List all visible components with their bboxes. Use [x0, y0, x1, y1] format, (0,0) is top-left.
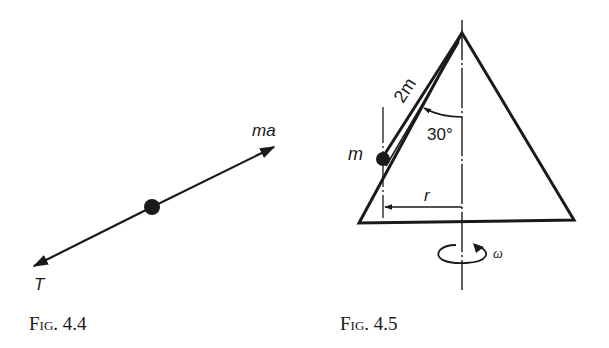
caption-number: 4.4	[63, 313, 87, 334]
label-angle: 30°	[427, 125, 453, 144]
caption-prefix: Fig.	[340, 313, 369, 334]
fig-4-5-diagram: 2m 30° m r ω	[348, 20, 574, 290]
label-omega: ω	[493, 246, 503, 261]
angle-arc	[424, 108, 462, 117]
rotation-arrowhead-icon	[473, 243, 484, 253]
tension-line	[34, 207, 152, 266]
label-t: T	[34, 275, 46, 294]
rod-inner	[386, 42, 459, 166]
caption-number: 4.5	[374, 313, 398, 334]
cone-outline	[359, 33, 574, 223]
figures-canvas: ma T 2m 30° m r ω	[0, 0, 609, 348]
caption-fig-4-5: Fig. 4.5	[340, 313, 398, 335]
label-r: r	[424, 186, 431, 205]
label-2m: 2m	[390, 74, 420, 106]
particle-mass	[144, 199, 160, 215]
fig-4-4-diagram: ma T	[34, 121, 276, 294]
label-ma: ma	[252, 121, 276, 140]
label-m: m	[348, 144, 363, 164]
caption-fig-4-4: Fig. 4.4	[29, 313, 87, 335]
force-line	[152, 147, 274, 207]
caption-prefix: Fig.	[29, 313, 58, 334]
